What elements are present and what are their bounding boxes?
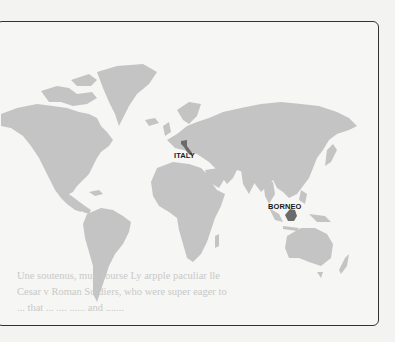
bleed-through-text-line: Cesar v Roman Soldiers, who were super e… <box>17 286 227 297</box>
australia <box>285 228 333 266</box>
map-label-borneo: BORNEO <box>268 202 302 211</box>
map-label-italy: ITALY <box>174 151 195 160</box>
greenland <box>97 64 157 126</box>
bleed-through-text-line: Une soutenus, muy course Ly arpple pacul… <box>17 270 220 281</box>
arctic-islands <box>41 86 97 106</box>
north-america <box>1 104 113 212</box>
map-figure-frame: ITALY BORNEO Une soutenus, muy course Ly… <box>0 21 379 326</box>
bleed-through-text-line <box>91 250 94 261</box>
bleed-through-text-top <box>40 4 43 15</box>
bleed-through-text-line: ... that ... .... ...... and ....... <box>17 302 124 313</box>
